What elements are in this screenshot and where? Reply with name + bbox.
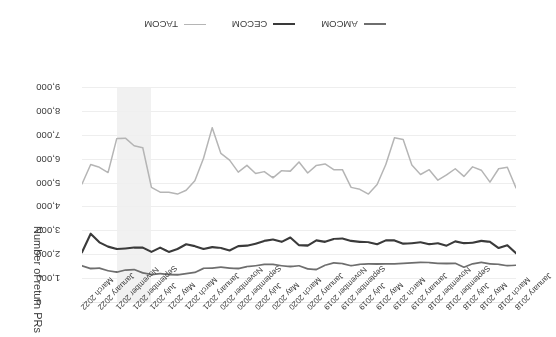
y-axis-tick: 4,000 [36,202,60,213]
legend-label: TACOM [144,19,178,30]
legend-item-amcom[interactable]: AMCOM [321,19,385,30]
legend-line-swatch [273,24,295,26]
legend-label: CECOM [232,19,267,30]
y-axis-tick: 6,000 [36,154,60,165]
y-axis-tick: 5,000 [36,178,60,189]
legend-item-cecom[interactable]: CECOM [232,19,295,30]
legend-item-tacom[interactable]: TACOM [144,19,206,30]
y-axis-tick: 8,000 [36,106,60,117]
legend-line-swatch [184,24,206,25]
y-axis-title: Number of return PRs [32,226,44,337]
chart-legend: AMCOMCECOMTACOM [0,19,530,30]
legend-label: AMCOM [321,19,357,30]
legend-line-swatch [364,24,386,26]
y-axis-tick: 7,000 [36,130,60,141]
y-axis-tick: 9,000 [36,83,60,94]
